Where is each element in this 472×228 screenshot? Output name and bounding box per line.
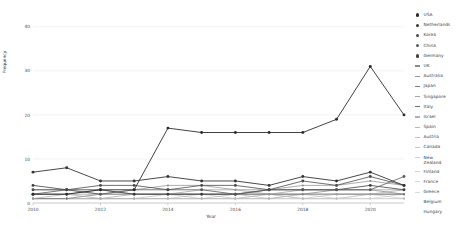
y-axis-label: Frequency — [2, 32, 7, 92]
legend-item-finland[interactable]: Finland — [412, 169, 472, 179]
legend-item-greece[interactable]: Greece — [412, 189, 472, 199]
legend-dash-marker-icon — [412, 125, 423, 130]
legend-item-label: New Zealand — [423, 155, 441, 165]
legend-item-label: Canada — [423, 144, 440, 149]
dash-icon — [415, 76, 420, 77]
legend-item-israel[interactable]: Israel — [412, 114, 472, 124]
dash-icon — [415, 65, 420, 66]
legend-item-label: Greece — [423, 189, 439, 194]
legend-item-label: Australia — [423, 73, 443, 78]
legend-item-uk[interactable]: UK — [412, 63, 472, 73]
plot-area: 010203040 201020122014201620182020 Frequ… — [0, 0, 472, 228]
dot-icon — [416, 34, 419, 37]
legend-dot-marker-icon — [412, 13, 423, 18]
legend-item-label: Hungary — [423, 209, 442, 214]
dash-icon — [415, 127, 420, 128]
legend-dash-marker-icon — [412, 84, 423, 89]
legend-dash-marker-icon — [412, 179, 423, 184]
legend-dot-marker-icon — [412, 23, 423, 28]
dot-icon — [416, 24, 419, 27]
legend-item-usa[interactable]: USA — [412, 12, 472, 22]
legend-item-canada[interactable]: Canada — [412, 144, 472, 154]
x-tick-label: 2012 — [85, 207, 115, 212]
legend-item-label: Spain — [423, 124, 436, 129]
legend-item-label: Belgium — [423, 199, 441, 204]
chart-root: 010203040 201020122014201620182020 Frequ… — [0, 0, 472, 228]
dash-icon — [415, 96, 420, 97]
legend-dot-marker-icon — [412, 33, 423, 38]
legend-item-label: Italy — [423, 104, 433, 109]
legend-item-singapore[interactable]: Singapore — [412, 94, 472, 104]
dash-icon — [415, 116, 420, 117]
legend-dot-marker-icon — [412, 53, 423, 58]
legend-dash-marker-icon — [412, 190, 423, 195]
dash-icon — [415, 86, 420, 87]
x-tick-label: 2020 — [355, 207, 385, 212]
legend-item-germany[interactable]: Germany — [412, 53, 472, 63]
legend-item-netherlands[interactable]: Netherlands — [412, 22, 472, 32]
legend-dash-marker-icon — [412, 135, 423, 140]
x-tick-label: 2010 — [18, 207, 48, 212]
y-tick-label: 40 — [16, 24, 30, 29]
y-tick-label: 10 — [16, 157, 30, 162]
dot-icon — [416, 54, 419, 57]
legend-item-label: Korea — [423, 32, 436, 37]
y-tick-label: 0 — [16, 201, 30, 206]
legend-item-label: Israel — [423, 114, 436, 119]
y-tick-label: 30 — [16, 68, 30, 73]
legend-item-label: China — [423, 43, 436, 48]
legend-item-china[interactable]: China — [412, 43, 472, 53]
legend-dash-marker-icon — [412, 155, 423, 160]
legend-dash-marker-icon — [412, 114, 423, 119]
legend-dash-marker-icon — [412, 94, 423, 99]
axis-ticks — [33, 203, 370, 206]
dash-icon — [415, 192, 420, 193]
dash-icon — [415, 137, 420, 138]
legend-dash-marker-icon — [412, 64, 423, 69]
legend-item-japan[interactable]: Japan — [412, 83, 472, 93]
legend-dash-marker-icon — [412, 169, 423, 174]
legend-item-label: Finland — [423, 169, 439, 174]
series-lines — [33, 66, 404, 198]
legend-dot-marker-icon — [412, 43, 423, 48]
legend-item-korea[interactable]: Korea — [412, 32, 472, 42]
legend-item-belgium[interactable]: Belgium — [412, 199, 472, 209]
legend-item-spain[interactable]: Spain — [412, 124, 472, 134]
chart-svg — [0, 0, 472, 228]
legend-item-austria[interactable]: Austria — [412, 134, 472, 144]
legend-blank-marker-icon — [412, 200, 423, 205]
legend-item-label: Japan — [423, 83, 436, 88]
legend-dash-marker-icon — [412, 74, 423, 79]
dot-icon — [416, 44, 419, 47]
legend-item-label: Austria — [423, 134, 439, 139]
dash-icon — [415, 147, 420, 148]
dash-icon — [415, 171, 420, 172]
x-tick-label: 2014 — [153, 207, 183, 212]
legend-item-label: Germany — [423, 53, 444, 58]
dash-icon — [415, 157, 420, 158]
legend-item-label: Netherlands — [423, 22, 450, 27]
legend-item-hungary[interactable]: Hungary — [412, 209, 472, 219]
legend-blank-marker-icon — [412, 210, 423, 215]
legend-item-label: USA — [423, 12, 433, 17]
legend-item-new-zealand[interactable]: New Zealand — [412, 155, 472, 169]
x-axis-label: Year — [186, 214, 236, 219]
legend-dash-marker-icon — [412, 104, 423, 109]
dash-icon — [415, 181, 420, 182]
legend-dash-marker-icon — [412, 145, 423, 150]
x-tick-label: 2018 — [288, 207, 318, 212]
dot-icon — [416, 13, 419, 16]
legend-item-label: UK — [423, 63, 430, 68]
dash-icon — [415, 106, 420, 107]
legend-item-label: France — [423, 179, 438, 184]
legend-item-australia[interactable]: Australia — [412, 73, 472, 83]
legend-item-italy[interactable]: Italy — [412, 104, 472, 114]
legend-item-france[interactable]: France — [412, 179, 472, 189]
y-tick-label: 20 — [16, 113, 30, 118]
chart-legend: USANetherlandsKoreaChinaGermanyUKAustral… — [412, 12, 472, 220]
x-tick-label: 2016 — [220, 207, 250, 212]
legend-item-label: Singapore — [423, 94, 446, 99]
